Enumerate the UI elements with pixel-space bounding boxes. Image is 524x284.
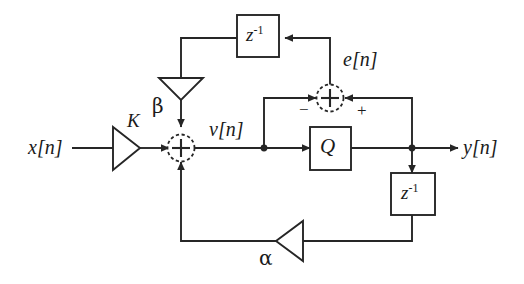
label-error-sum-plus: + (357, 101, 367, 121)
label-output-signal: y[n] (463, 136, 497, 159)
delay-right-exponent: -1 (408, 181, 418, 195)
wire-y-to-error-sum-plus (345, 98, 412, 148)
gain-k-triangle (113, 127, 140, 170)
label-gain-k: K (127, 110, 140, 132)
label-gain-alpha: α (259, 246, 273, 270)
delay-top-exponent: -1 (253, 23, 263, 37)
label-delay-top: z-1 (246, 23, 263, 46)
wire-error-to-delay-top (285, 38, 330, 85)
wire-delay-top-to-beta (181, 38, 237, 78)
label-delay-right: z-1 (401, 181, 418, 204)
block-diagram-canvas: x[n] K β v[n] e[n] y[n] α − + z-1 z-1 Q (0, 0, 524, 284)
label-error-sum-minus: − (299, 100, 309, 120)
wire-alpha-to-sum (181, 162, 276, 241)
label-input-signal: x[n] (28, 136, 62, 159)
label-node-v: v[n] (209, 118, 243, 141)
wire-delay-right-to-alpha (303, 215, 412, 241)
gain-beta-triangle (159, 78, 203, 100)
label-gain-beta: β (152, 94, 164, 118)
label-quantizer: Q (320, 134, 335, 159)
label-error-signal: e[n] (343, 48, 377, 71)
gain-alpha-triangle (276, 221, 303, 261)
